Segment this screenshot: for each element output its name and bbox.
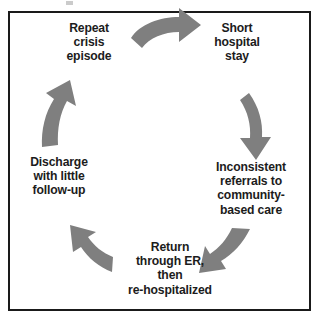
cycle-diagram-root: Repeat crisis episode Short hospital sta… [0, 0, 321, 322]
arrow-top-icon [131, 8, 201, 48]
node-repeat-crisis: Repeat crisis episode [50, 21, 128, 64]
node-short-hospital-stay: Short hospital stay [198, 21, 276, 64]
arrow-bottom-left-icon [70, 225, 113, 272]
node-return-through-er: Return through ER, then re-hospitalized [110, 240, 230, 297]
arrow-right-icon [240, 93, 271, 160]
node-discharge-little-followup: Discharge with little follow-up [14, 155, 104, 198]
node-inconsistent-referrals: Inconsistent referrals to community- bas… [199, 160, 303, 217]
arrow-left-icon [42, 80, 76, 147]
